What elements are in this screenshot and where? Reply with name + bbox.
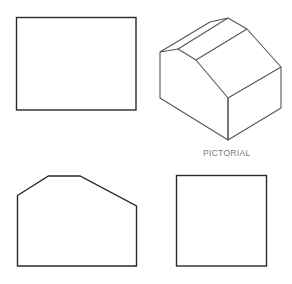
pictorial-view bbox=[160, 18, 281, 140]
front-view-shape bbox=[18, 176, 137, 266]
pictorial-right-face bbox=[228, 67, 281, 140]
pictorial-roof-ridge-left bbox=[178, 18, 228, 49]
pictorial-roof-outline bbox=[160, 18, 281, 67]
side-view-square bbox=[177, 176, 267, 267]
top-view-rectangle bbox=[17, 18, 137, 111]
pictorial-label: PICTORIAL bbox=[203, 148, 250, 158]
projection-drawing bbox=[0, 0, 292, 284]
pictorial-left-face bbox=[160, 49, 228, 140]
